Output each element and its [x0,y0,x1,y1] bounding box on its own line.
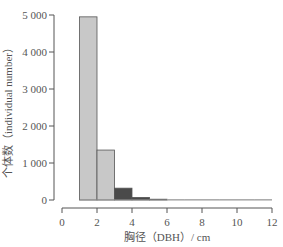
x-axis-title: 胸径（DBH）/ cm [124,230,211,243]
x-axis: 024681012 [59,208,277,228]
y-tick-label: 4 000 [22,46,47,58]
y-tick-label: 1 000 [22,157,47,169]
y-axis: 01 0002 0003 0004 0005 000 [22,9,54,206]
histogram-bar [97,150,115,200]
histogram-bars [80,17,273,200]
x-tick-label: 10 [232,216,244,228]
histogram-chart: 01 0002 0003 0004 0005 000 024681012 个体数… [0,0,283,247]
x-tick-label: 4 [129,216,135,228]
x-tick-label: 12 [267,216,278,228]
x-tick-label: 2 [94,216,100,228]
y-tick-label: 3 000 [22,83,47,95]
y-axis-title: 个体数（individual number） [1,42,14,178]
histogram-bar [80,17,98,200]
histogram-bar [115,188,133,200]
y-tick-label: 5 000 [22,9,47,21]
x-tick-label: 8 [199,216,205,228]
y-tick-label: 0 [42,194,48,206]
x-tick-label: 6 [164,216,170,228]
x-tick-label: 0 [59,216,65,228]
y-tick-label: 2 000 [22,120,47,132]
